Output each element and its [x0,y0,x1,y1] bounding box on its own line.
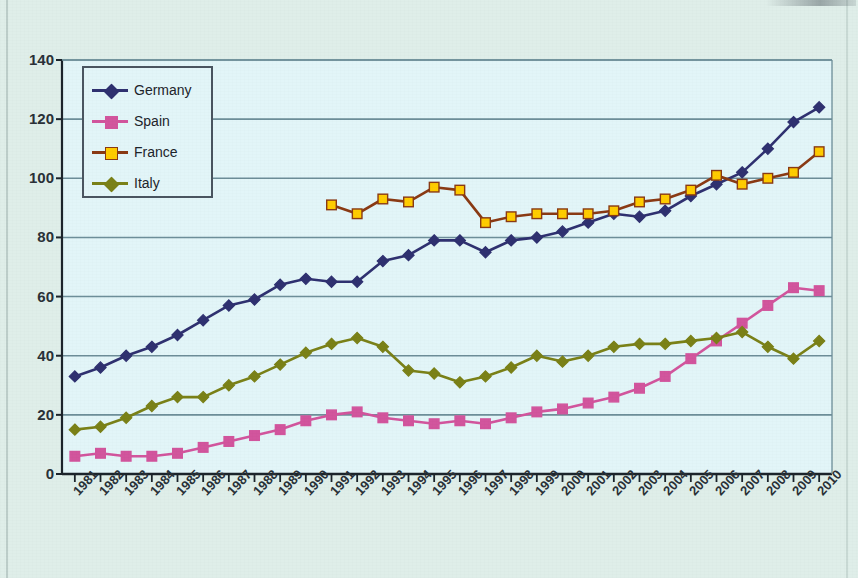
x-axis-tick-label: 1985 [173,467,204,498]
x-axis-tick-label: 2007 [737,467,768,498]
legend-marker-square-icon [105,147,118,160]
x-axis-tick-label: 2003 [635,467,666,498]
x-axis-tick-label: 1991 [327,467,358,498]
x-axis-tick-label: 2010 [814,467,845,498]
x-axis-tick-label: 1982 [96,467,127,498]
x-axis-tick-label: 2000 [558,467,589,498]
legend-item-germany[interactable]: Germany [84,74,211,105]
x-axis-tick-label: 1986 [198,467,229,498]
x-axis-tick-label: 1994 [404,467,435,498]
legend-item-france[interactable]: France [84,136,211,167]
legend-item-label: France [134,144,178,160]
x-axis-tick-label: 2009 [789,467,820,498]
legend-swatch-icon [92,176,128,190]
x-axis-tick-label: 1989 [275,467,306,498]
x-axis-tick-label: 1984 [147,467,178,498]
x-axis-tick-label: 1997 [481,467,512,498]
x-axis-tick-label: 2006 [712,467,743,498]
x-axis-tick-label: 2008 [763,467,794,498]
legend-swatch-icon [92,83,128,97]
x-axis-tick-label: 2005 [686,467,717,498]
x-axis-tick-label: 1998 [506,467,537,498]
x-axis-tick-label: 1983 [121,467,152,498]
x-axis-tick-label: 1981 [70,467,101,498]
x-axis-tick-label: 1992 [352,467,383,498]
legend-marker-diamond-icon [104,176,120,192]
x-axis-tick-label: 2001 [583,467,614,498]
scanned-page: 020406080100120140 198119821983198419851… [0,0,858,578]
x-axis-tick-label: 1996 [455,467,486,498]
x-axis-tick-label: 2004 [660,467,691,498]
x-axis-tick-label: 1993 [378,467,409,498]
x-axis-tick-label: 1990 [301,467,332,498]
legend-item-label: Germany [134,82,192,98]
x-axis-tick-label: 1987 [224,467,255,498]
x-axis-tick-label: 1995 [429,467,460,498]
legend-swatch-icon [92,145,128,159]
legend: GermanySpainFranceItaly [82,66,213,198]
legend-item-italy[interactable]: Italy [84,167,211,198]
legend-marker-square-icon [105,116,118,129]
legend-marker-diamond-icon [104,83,120,99]
legend-item-label: Italy [134,175,160,191]
legend-item-label: Spain [134,113,170,129]
x-axis-tick-label: 1988 [250,467,281,498]
x-axis-tick-label: 1999 [532,467,563,498]
legend-item-spain[interactable]: Spain [84,105,211,136]
x-axis-tick-label: 2002 [609,467,640,498]
legend-swatch-icon [92,114,128,128]
line-chart: 020406080100120140 198119821983198419851… [0,0,858,578]
